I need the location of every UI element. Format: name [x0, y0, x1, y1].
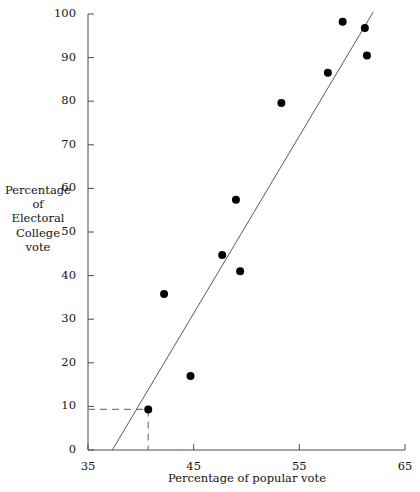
- data-point: [218, 251, 226, 259]
- x-axis-title: Percentage of popular vote: [88, 471, 406, 485]
- y-tick-label: 10: [46, 398, 76, 412]
- y-axis-title: PercentageofElectoralCollegevote: [2, 183, 74, 254]
- tick-marks-group: [88, 14, 405, 450]
- y-axis-title-line: Electoral: [2, 211, 74, 225]
- data-point: [232, 196, 240, 204]
- scatter-plot-figure: 0102030405060708090100 35455565 Percenta…: [0, 0, 420, 492]
- y-axis-title-line: vote: [2, 240, 74, 254]
- y-tick-label: 70: [46, 137, 76, 151]
- y-axis-title-line: College: [2, 226, 74, 240]
- data-point: [277, 99, 285, 107]
- data-point: [236, 267, 244, 275]
- annotation-dashed-lines: [88, 409, 148, 450]
- data-point: [363, 51, 371, 59]
- data-points-group: [144, 18, 371, 414]
- y-axis-title-line: Percentage: [2, 183, 74, 197]
- y-tick-label: 0: [46, 442, 76, 456]
- fit-line: [112, 12, 373, 450]
- data-point: [361, 24, 369, 32]
- data-point: [160, 290, 168, 298]
- data-point: [144, 405, 152, 413]
- data-point: [324, 69, 332, 77]
- data-point: [339, 18, 347, 26]
- data-point: [186, 372, 194, 380]
- y-tick-label: 100: [46, 6, 76, 20]
- y-tick-label: 80: [46, 93, 76, 107]
- regression-line: [112, 12, 373, 450]
- axes-group: [88, 14, 405, 450]
- y-tick-label: 90: [46, 50, 76, 64]
- y-tick-label: 40: [46, 268, 76, 282]
- y-tick-label: 30: [46, 311, 76, 325]
- y-axis-title-line: of: [2, 197, 74, 211]
- y-tick-label: 20: [46, 355, 76, 369]
